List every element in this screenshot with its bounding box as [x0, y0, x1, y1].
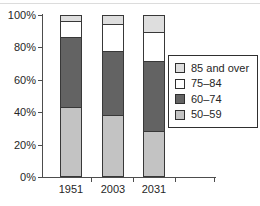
y-axis-tick-mark: [38, 15, 42, 16]
x-axis-tick-mark: [175, 178, 176, 182]
stacked-bar-1951: [60, 15, 82, 177]
bar-segment-85 and over: [103, 16, 123, 24]
legend-box: 85 and over75–8460–7450–59: [168, 55, 258, 128]
top-divider: [0, 3, 260, 4]
y-axis-tick-mark: [38, 80, 42, 81]
y-axis-tick-mark: [38, 145, 42, 146]
bar-segment-75–84: [103, 24, 123, 51]
legend-swatch: [175, 94, 185, 104]
legend-label: 85 and over: [191, 63, 249, 74]
bar-segment-50–59: [61, 107, 81, 176]
y-axis-tick-label: 60%: [2, 74, 36, 86]
x-axis-tick-mark: [214, 178, 215, 182]
y-axis-tick-label: 40%: [2, 106, 36, 118]
y-axis-line: [42, 14, 43, 178]
bar-segment-60–74: [61, 37, 81, 107]
legend-swatch: [175, 79, 185, 89]
bar-segment-50–59: [144, 131, 164, 176]
y-axis-tick-label: 100%: [2, 9, 36, 21]
legend-swatch: [175, 110, 185, 120]
y-axis-tick-mark: [38, 177, 42, 178]
y-axis-tick-mark: [38, 47, 42, 48]
legend-swatch: [175, 63, 185, 73]
bar-segment-60–74: [103, 51, 123, 115]
stacked-bar-2031: [143, 15, 165, 177]
legend-item: 60–74: [175, 94, 255, 105]
bar-segment-85 and over: [144, 16, 164, 32]
y-axis-tick-label: 0%: [2, 171, 36, 183]
bar-segment-75–84: [61, 21, 81, 37]
legend-label: 60–74: [191, 94, 222, 105]
stacked-bar-2003: [102, 15, 124, 177]
x-axis-category-label: 2031: [132, 183, 176, 196]
y-axis-tick-label: 80%: [2, 41, 36, 53]
x-axis-tick-mark: [133, 178, 134, 182]
x-axis-line: [42, 177, 216, 178]
legend-label: 75–84: [191, 78, 222, 89]
legend-item: 85 and over: [175, 63, 255, 74]
x-axis-category-label: 2003: [91, 183, 135, 196]
bar-segment-50–59: [103, 115, 123, 176]
legend-item: 50–59: [175, 109, 255, 120]
y-axis-tick-label: 20%: [2, 139, 36, 151]
chart-figure: 0%20%40%60%80%100%195120032031 85 and ov…: [0, 0, 260, 206]
y-axis-tick-mark: [38, 112, 42, 113]
x-axis-tick-mark: [91, 178, 92, 182]
x-axis-category-label: 1951: [49, 183, 93, 196]
bar-segment-60–74: [144, 61, 164, 131]
legend-item: 75–84: [175, 78, 255, 89]
bar-segment-75–84: [144, 32, 164, 61]
legend-label: 50–59: [191, 109, 222, 120]
